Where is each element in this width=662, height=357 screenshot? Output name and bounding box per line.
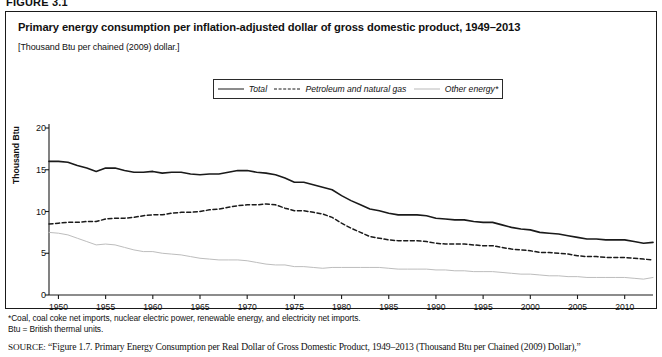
figure-box: Primary energy consumption per inflation… [5,11,657,309]
chart-svg [6,12,658,307]
source-kicker: SOURCE: [8,342,46,352]
series-line-petroleum-and-natural-gas [49,204,653,260]
plot-area: Thousand Btu 05101520 195019551960196519… [6,12,658,307]
chart-footnotes: *Coal, coal coke net imports, nuclear el… [8,313,360,335]
series-line-other-energy [49,232,653,279]
series-line-total [49,161,653,243]
footnote-other-energy: *Coal, coal coke net imports, nuclear el… [8,313,360,324]
source-citation: SOURCE: “Figure 1.7. Primary Energy Cons… [8,341,581,352]
source-text: “Figure 1.7. Primary Energy Consumption … [46,341,581,352]
footnote-btu-definition: Btu = British thermal units. [8,324,360,335]
figure-number-header: FIGURE 3.1 [6,0,68,8]
